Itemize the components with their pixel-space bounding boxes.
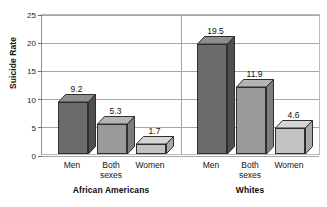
bar-side-face	[165, 136, 174, 155]
bar-value-label: 11.9	[247, 69, 263, 79]
x-category-label: Women	[266, 160, 312, 170]
cropped-title-strip	[0, 0, 327, 7]
bar-front-face	[197, 44, 227, 154]
bar-value-label: 1.7	[149, 126, 161, 136]
bar-african-americans-women[interactable]	[136, 144, 166, 154]
bar-side-face	[126, 116, 135, 155]
y-tick-mark-25	[38, 15, 42, 16]
bar-value-label: 19.5	[207, 26, 224, 36]
y-tick-label-25: 25	[16, 11, 36, 20]
x-category-label: Women	[127, 160, 173, 170]
chart-figure: Suicide Rate 0510152025 9.25.31.719.511.…	[0, 0, 327, 207]
y-tick-label-5: 5	[16, 123, 36, 132]
bar-side-face	[265, 79, 274, 155]
bar-whites-men[interactable]	[197, 44, 227, 154]
group-divider	[181, 15, 182, 154]
bar-whites-women[interactable]	[275, 128, 305, 154]
bar-african-americans-men[interactable]	[58, 102, 88, 154]
bar-front-face	[236, 87, 266, 154]
category-label-line1: Women	[266, 160, 312, 170]
category-label-line1: Women	[127, 160, 173, 170]
bar-front-face	[97, 124, 127, 154]
x-group-label-african-americans: African Americans	[51, 185, 171, 195]
bar-front-face	[136, 144, 166, 154]
bar-side-face	[87, 94, 96, 155]
x-group-label-whites: Whites	[190, 185, 310, 195]
gridline-0	[42, 156, 319, 157]
bar-african-americans-both-sexes[interactable]	[97, 124, 127, 154]
category-label-line2: sexes	[88, 170, 134, 180]
y-tick-mark-20	[38, 43, 42, 44]
y-tick-label-20: 20	[16, 39, 36, 48]
y-tick-mark-0	[38, 156, 42, 157]
y-tick-mark-15	[38, 71, 42, 72]
y-tick-mark-10	[38, 99, 42, 100]
y-axis-title: Suicide Rate	[8, 25, 20, 101]
bar-front-face	[58, 102, 88, 154]
bar-front-face	[275, 128, 305, 154]
bar-whites-both-sexes[interactable]	[236, 87, 266, 154]
bar-value-label: 4.6	[288, 110, 300, 120]
bar-side-face	[304, 120, 313, 155]
y-tick-label-10: 10	[16, 95, 36, 104]
bar-value-label: 5.3	[110, 106, 122, 116]
category-label-line2: sexes	[227, 170, 273, 180]
y-tick-label-0: 0	[16, 152, 36, 161]
y-tick-mark-5	[38, 127, 42, 128]
plot-area: 0510152025 9.25.31.719.511.94.6	[41, 14, 320, 155]
bar-value-label: 9.2	[71, 84, 83, 94]
bar-side-face	[226, 36, 235, 155]
y-tick-label-15: 15	[16, 67, 36, 76]
